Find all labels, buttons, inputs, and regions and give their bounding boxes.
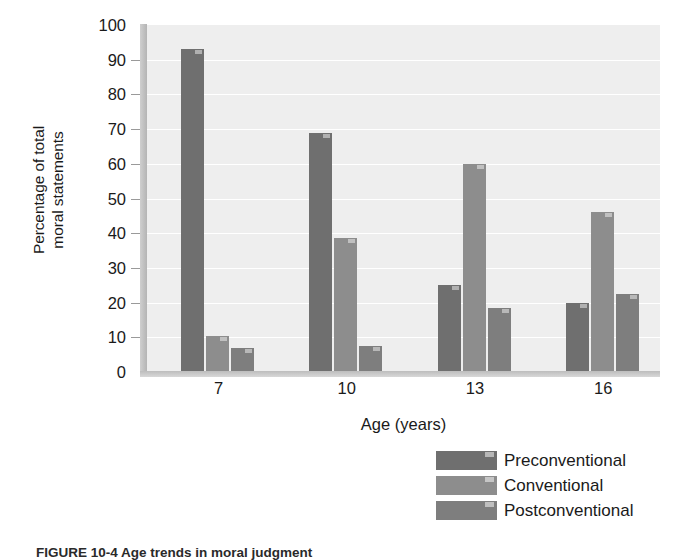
- legend-item: Conventional: [436, 473, 686, 498]
- bar-body: [438, 285, 461, 372]
- bar-body: [334, 238, 357, 372]
- bar: [488, 308, 511, 372]
- bar-body: [206, 336, 229, 372]
- plot-area: [147, 25, 660, 372]
- x-axis-tick-label: 10: [338, 380, 356, 397]
- legend-swatch-highlight: [485, 502, 494, 507]
- bar: [566, 303, 589, 372]
- y-axis-tick-labels: 0102030405060708090100: [52, 25, 126, 372]
- y-axis-tick-label: 20: [108, 294, 126, 311]
- bar-highlight: [220, 337, 227, 341]
- bar: [231, 348, 254, 372]
- bar-highlight: [373, 347, 380, 351]
- bar-highlight: [502, 309, 509, 313]
- bar-body: [566, 303, 589, 372]
- bar-body: [463, 164, 486, 372]
- legend-swatch-highlight: [485, 452, 494, 457]
- legend-item: Postconventional: [436, 498, 686, 523]
- bar-body: [309, 133, 332, 372]
- bar: [181, 49, 204, 372]
- x-axis-tick-label: 16: [594, 380, 612, 397]
- y-axis-title-line-1: Percentage of total: [30, 126, 49, 254]
- x-axis-line: [140, 371, 660, 377]
- x-axis-title: Age (years): [147, 415, 660, 434]
- y-axis-tick-label: 80: [108, 86, 126, 103]
- bar-body: [591, 212, 614, 372]
- bar-highlight: [477, 165, 484, 169]
- bar-highlight: [580, 304, 587, 308]
- bar-highlight: [605, 213, 612, 217]
- legend-swatch: [436, 501, 497, 520]
- y-axis-tick-label: 10: [108, 329, 126, 346]
- bars-layer: [147, 25, 660, 372]
- y-axis-tick-label: 30: [108, 260, 126, 277]
- bar-highlight: [348, 239, 355, 243]
- x-axis-tick-label: 7: [214, 380, 223, 397]
- bar: [206, 336, 229, 372]
- legend: PreconventionalConventionalPostconventio…: [436, 448, 686, 523]
- legend-swatch: [436, 451, 497, 470]
- y-axis-line: [140, 24, 147, 373]
- bar: [334, 238, 357, 372]
- figure-caption: FIGURE 10-4 Age trends in moral judgment: [36, 545, 312, 560]
- y-axis-tick-label: 90: [108, 51, 126, 68]
- x-axis-tick-labels: 7101316: [147, 380, 660, 406]
- y-axis-tick-label: 100: [98, 17, 126, 34]
- bar-body: [488, 308, 511, 372]
- bar: [616, 294, 639, 372]
- bar: [309, 133, 332, 372]
- legend-swatch: [436, 476, 497, 495]
- legend-label: Conventional: [504, 477, 603, 494]
- y-axis-tick-label: 60: [108, 156, 126, 173]
- x-axis-tick-label: 13: [466, 380, 484, 397]
- bar-highlight: [452, 286, 459, 290]
- bar-body: [616, 294, 639, 372]
- bar: [359, 346, 382, 372]
- y-axis-tick-label: 70: [108, 121, 126, 138]
- bar: [591, 212, 614, 372]
- bar-highlight: [245, 349, 252, 353]
- bar-highlight: [630, 295, 637, 299]
- y-axis-tick-label: 0: [117, 364, 126, 381]
- legend-swatch-highlight: [485, 477, 494, 482]
- legend-label: Postconventional: [504, 502, 633, 519]
- bar-highlight: [195, 50, 202, 54]
- legend-item: Preconventional: [436, 448, 686, 473]
- bar-body: [181, 49, 204, 372]
- y-axis-tick-label: 50: [108, 190, 126, 207]
- bar-highlight: [323, 134, 330, 138]
- legend-label: Preconventional: [504, 452, 626, 469]
- bar: [463, 164, 486, 372]
- bar: [438, 285, 461, 372]
- y-axis-tick-label: 40: [108, 225, 126, 242]
